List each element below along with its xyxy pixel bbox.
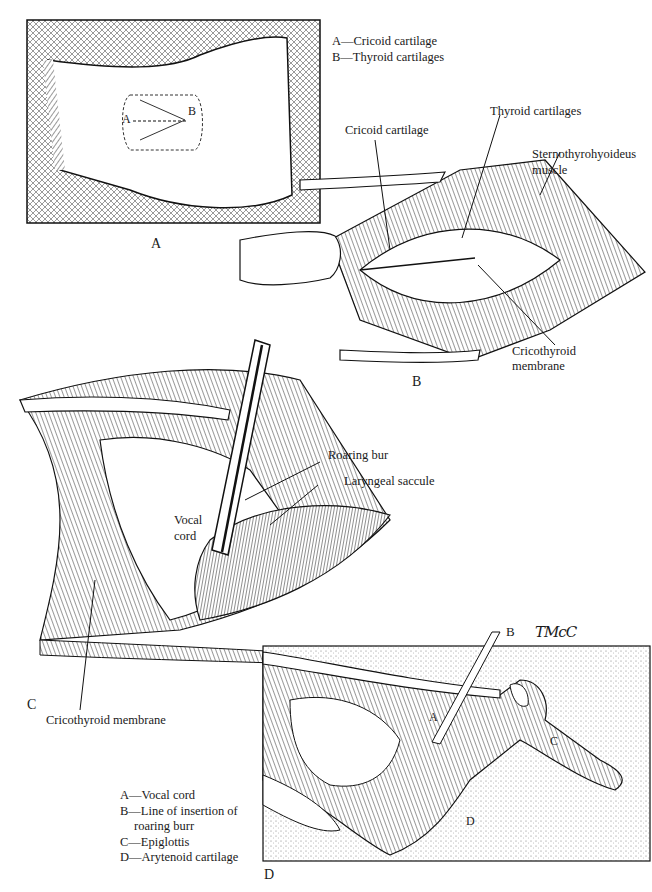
legend-item-insertion-line-cont: roaring burr [120,819,238,835]
panel-d-legend: A—Vocal cord B—Line of insertion of roar… [120,788,238,866]
legend-item-thyroid: B—Thyroid cartilages [332,50,444,66]
panel-a-point-b: B [188,104,196,119]
label-cord: cord [174,529,196,544]
panel-d-drawing [263,632,650,861]
legend-item-insertion-line: B—Line of insertion of [120,804,238,820]
panel-d-point-d: D [466,814,475,829]
legend-item-vocal-cord: A—Vocal cord [120,788,238,804]
label-cricothyroid-membrane: Cricothyroid membrane [46,713,166,728]
panel-letter-d: D [264,867,274,883]
panel-d-point-b: B [506,624,515,639]
legend-item-epiglottis: C—Epiglottis [120,835,238,851]
artist-signature: TMcC [535,623,576,641]
label-vocal: Vocal [174,513,202,528]
label-roaring-bur: Roaring bur [328,448,388,463]
panel-a-legend: A—Cricoid cartilage B—Thyroid cartilages [332,34,444,65]
panel-a-drawing [27,20,320,223]
legend-item-arytenoid: D—Arytenoid cartilage [120,850,238,866]
illustration-artwork [0,0,652,892]
label-thyroid-cartilages: Thyroid cartilages [490,104,581,119]
label-muscle: muscle [532,163,567,178]
label-cricothyroid: Cricothyroid [512,344,576,359]
panel-a-point-a: A [122,112,131,127]
panel-letter-a: A [151,236,161,252]
label-cricoid-cartilage: Cricoid cartilage [345,123,429,138]
label-laryngeal-saccule: Laryngeal saccule [344,474,435,489]
panel-letter-c: C [27,697,36,713]
legend-item-cricoid: A—Cricoid cartilage [332,34,444,50]
label-membrane: membrane [512,359,565,374]
label-sternothyrohyoideus: Sternothyrohyoideus [532,147,636,162]
panel-d-point-c: C [550,734,558,749]
panel-d-point-a: A [429,710,438,725]
panel-letter-b: B [412,374,421,390]
